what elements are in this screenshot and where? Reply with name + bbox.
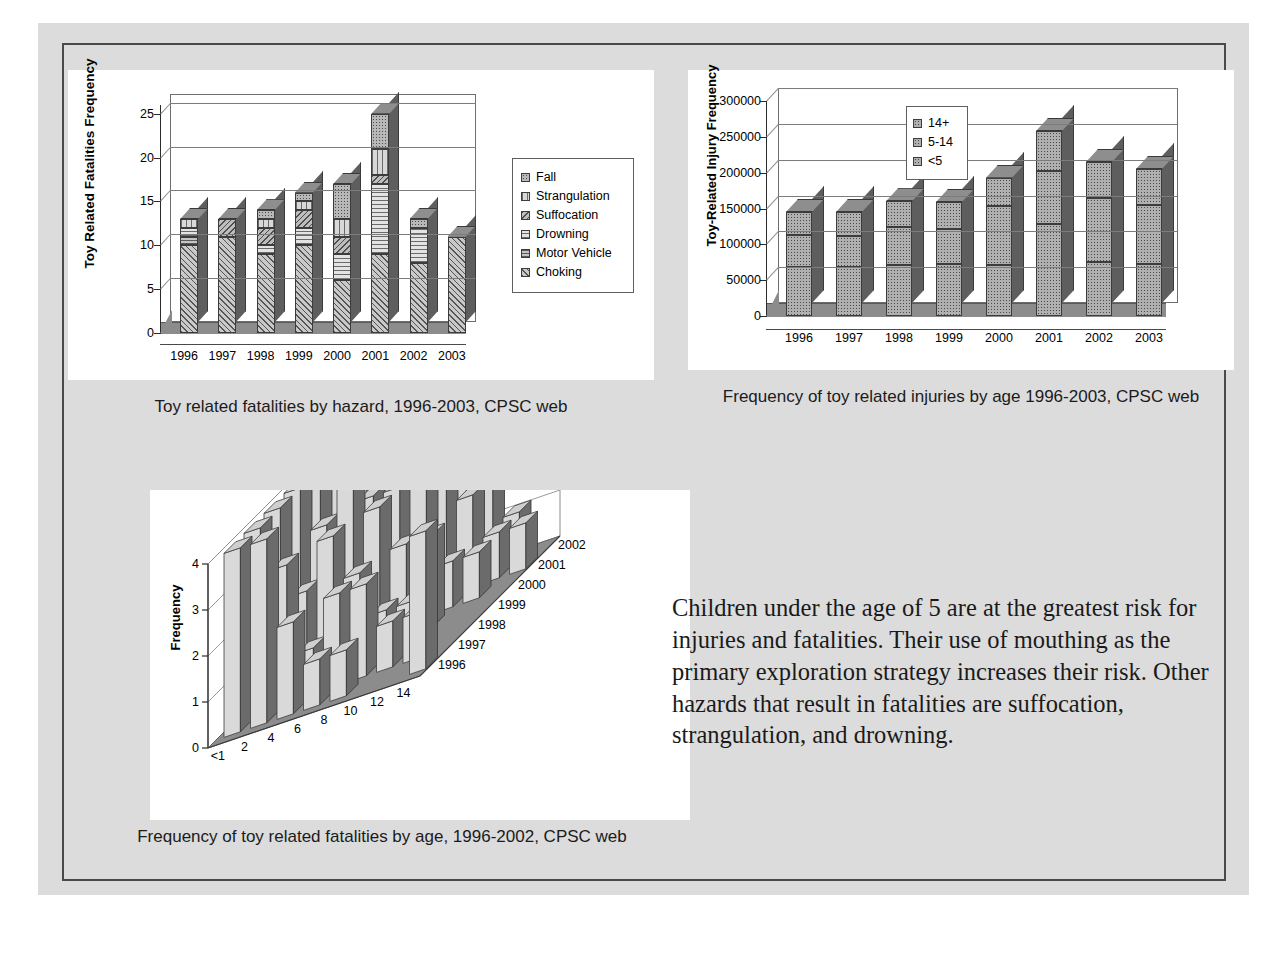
- chart2-y-tick-label: 250000: [719, 130, 761, 144]
- chart1-y-axis-line: [160, 105, 161, 333]
- chart2-bar-segment: [786, 267, 812, 316]
- chart3-y-tick-label: 2: [192, 649, 199, 663]
- chart2-axis-riser: [766, 196, 779, 210]
- chart1-legend-label: Suffocation: [536, 208, 598, 222]
- chart1-plot-area: 0510152025199619971998199920002001200220…: [160, 94, 476, 338]
- chart1-bar-segment: [333, 280, 351, 333]
- chart1-bar-segment: [257, 219, 275, 228]
- slide-canvas: Toy Related Fatalities Frequency 0510152…: [0, 0, 1281, 953]
- chart2-x-tick-label: 2000: [985, 331, 1013, 345]
- chart2-legend-item: 5-14: [913, 135, 961, 149]
- chart2-legend-swatch: [913, 119, 922, 128]
- chart3-y-tick-label: 0: [192, 741, 199, 755]
- chart2-legend-item: <5: [913, 154, 961, 168]
- chart1-legend-label: Drowning: [536, 227, 589, 241]
- chart1-legend-item: Drowning: [521, 227, 625, 241]
- chart1-legend-label: Motor Vehicle: [536, 246, 612, 260]
- chart1-y-tick: [154, 245, 161, 246]
- chart1-bar-segment: [218, 237, 236, 333]
- chart2-legend-label: 5-14: [928, 135, 953, 149]
- chart3-x-tick-label: 6: [294, 722, 301, 736]
- chart2-legend-item: 14+: [913, 116, 961, 130]
- chart2-bar-segment: [936, 264, 962, 316]
- chart1-bar-segment: [295, 228, 313, 246]
- chart1-legend-label: Fall: [536, 170, 556, 184]
- chart1-bar-segment: [180, 237, 198, 246]
- slide-body-paragraph: Children under the age of 5 are at the g…: [672, 592, 1228, 751]
- chart1-legend-item: Suffocation: [521, 208, 625, 222]
- chart2-axis-riser: [766, 160, 779, 174]
- chart1-legend-swatch: [521, 192, 530, 201]
- chart1-gridline: [170, 103, 476, 104]
- chart1-bar-segment: [448, 237, 466, 333]
- chart2-y-tick-label: 100000: [719, 237, 761, 251]
- chart-panel-fatalities-by-hazard: Toy Related Fatalities Frequency 0510152…: [68, 70, 654, 380]
- chart1-y-tick: [154, 289, 161, 290]
- chart1-x-tick-label: 2001: [361, 349, 389, 363]
- chart2-gridline: [778, 196, 1178, 197]
- chart1-legend-label: Choking: [536, 265, 582, 279]
- chart1-legend-item: Fall: [521, 170, 625, 184]
- chart2-bar-segment: [1036, 224, 1062, 316]
- chart2-bar-segment: [1036, 171, 1062, 225]
- chart2-bar-side: [1112, 136, 1124, 303]
- chart1-bar-segment: [371, 114, 389, 149]
- chart2-axis-riser: [766, 267, 779, 281]
- chart3-y-tick-label: 1: [192, 695, 199, 709]
- chart1-y-tick: [154, 158, 161, 159]
- chart2-x-tick-label: 1999: [935, 331, 963, 345]
- chart1-y-axis-title: Toy Related Fatalities Frequency: [82, 59, 97, 269]
- chart2-x-tick-label: 2001: [1035, 331, 1063, 345]
- chart1-gridline: [170, 234, 476, 235]
- chart1-bar-segment: [371, 184, 389, 254]
- chart2-axis-riser: [766, 231, 779, 245]
- chart2-x-tick-label: 2002: [1085, 331, 1113, 345]
- chart3-bar-front: [377, 621, 393, 673]
- chart1-bar-segment: [257, 210, 275, 219]
- chart3-x-tick-label: 10: [343, 704, 357, 718]
- chart2-bar-segment: [836, 267, 862, 316]
- chart1-x-axis-line: [160, 344, 466, 345]
- chart3-bar-front: [463, 552, 479, 604]
- chart3-bar-front: [510, 523, 526, 575]
- chart2-bar-segment: [1086, 262, 1112, 316]
- chart1-x-tick-label: 2002: [400, 349, 428, 363]
- chart2-bar-segment: [936, 229, 962, 264]
- chart2-gridline: [778, 267, 1178, 268]
- chart3-z-tick-label: 1998: [478, 618, 506, 632]
- chart2-y-tick-label: 0: [754, 309, 761, 323]
- chart2-legend-label: 14+: [928, 116, 949, 130]
- chart3-z-tick-label: 1999: [498, 598, 526, 612]
- chart2-bar-segment: [1086, 198, 1112, 262]
- chart3-z-tick-label: 1997: [458, 638, 486, 652]
- chart3-plot-area: 01234<1246810121419961997199819992000200…: [150, 490, 690, 820]
- chart3-y-tick-label: 4: [192, 557, 199, 571]
- chart1-x-tick-label: 1996: [170, 349, 198, 363]
- chart1-bar-segment: [180, 219, 198, 228]
- chart1-bar-segment: [371, 149, 389, 175]
- chart3-z-tick-label: 2001: [538, 558, 566, 572]
- chart2-legend-swatch: [913, 138, 922, 147]
- chart1-legend-swatch: [521, 230, 530, 239]
- chart2-legend-label: <5: [928, 154, 942, 168]
- chart1-x-tick-label: 2000: [323, 349, 351, 363]
- chart2-bar-segment: [1136, 205, 1162, 264]
- chart1-y-tick-label: 20: [140, 151, 154, 165]
- chart2-bar-segment: [986, 265, 1012, 316]
- chart3-y-tick-label: 3: [192, 603, 199, 617]
- chart1-gridline: [170, 278, 476, 279]
- chart2-bar-segment: [786, 235, 812, 267]
- chart3-bar-front: [330, 650, 346, 702]
- chart3-x-tick-label: 2: [241, 740, 248, 754]
- chart2-x-tick-label: 1998: [885, 331, 913, 345]
- chart2-x-tick-label: 1997: [835, 331, 863, 345]
- chart2-y-axis-title: Toy-Related Injury Frequency: [704, 41, 719, 271]
- chart1-y-tick-label: 25: [140, 107, 154, 121]
- chart1-bar-segment: [257, 245, 275, 254]
- chart3-bar-front: [224, 548, 240, 738]
- chart1-bar-segment: [295, 193, 313, 202]
- chart3-z-tick-label: 2002: [558, 538, 586, 552]
- chart2-bar-segment: [886, 265, 912, 316]
- chart2-caption: Frequency of toy related injuries by age…: [688, 386, 1234, 408]
- chart1-legend-label: Strangulation: [536, 189, 610, 203]
